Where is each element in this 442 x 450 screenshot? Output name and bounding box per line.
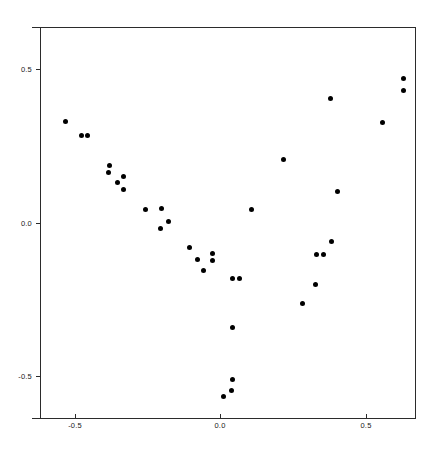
scatter-point — [201, 268, 206, 273]
x-tick-mark — [75, 414, 76, 419]
scatter-point — [221, 394, 226, 399]
scatter-point — [195, 257, 200, 262]
y-tick-label: -0.5 — [18, 372, 32, 381]
scatter-point — [230, 377, 235, 382]
x-tick-mark — [366, 414, 367, 419]
y-tick-label: 0.0 — [21, 219, 32, 228]
x-tick-mark — [220, 414, 221, 419]
scatter-point — [230, 325, 235, 330]
x-tick-label: 0.0 — [214, 421, 225, 430]
scatter-point — [158, 226, 163, 231]
y-tick-mark — [36, 223, 41, 224]
axis-spine-right — [415, 27, 416, 419]
scatter-point — [210, 251, 215, 256]
plot-area — [40, 27, 415, 418]
scatter-plot-figure: -0.50.00.5-0.50.00.5 — [0, 0, 442, 450]
scatter-point — [401, 88, 406, 93]
scatter-point — [281, 157, 286, 162]
y-tick-mark — [36, 376, 41, 377]
scatter-point — [401, 76, 406, 81]
axis-spine-bottom — [40, 418, 416, 419]
scatter-point — [380, 120, 385, 125]
x-tick-label: -0.5 — [68, 421, 82, 430]
scatter-point — [237, 276, 242, 281]
axis-corner-tick — [32, 27, 41, 28]
x-tick-label: 0.5 — [360, 421, 371, 430]
y-tick-mark — [36, 69, 41, 70]
y-tick-label: 0.5 — [21, 65, 32, 74]
axis-corner-tick — [415, 410, 416, 419]
scatter-point — [210, 258, 215, 263]
scatter-point — [187, 245, 192, 250]
scatter-point — [229, 388, 234, 393]
axis-corner-tick — [32, 418, 41, 419]
scatter-point — [230, 276, 235, 281]
scatter-point — [249, 207, 254, 212]
